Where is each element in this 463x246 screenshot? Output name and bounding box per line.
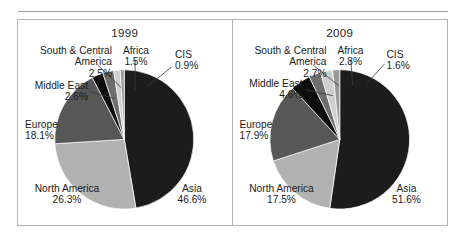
label-text: Europe — [240, 119, 273, 130]
label-pct: 17.9% — [240, 130, 300, 141]
label-europe-2009: Europe 17.9% — [240, 119, 300, 142]
label-asia-2009: Asia 51.6% — [379, 183, 435, 206]
label-africa-2009: Africa 2.8% — [329, 45, 373, 68]
label-text: North America — [35, 183, 100, 194]
label-text: CIS — [387, 49, 404, 60]
label-text: CIS — [175, 49, 192, 60]
label-middle-east-2009: Middle East 4.6% — [231, 78, 303, 101]
label-text: Europe — [25, 119, 58, 130]
label-text: Africa — [337, 45, 363, 56]
label-text: Africa — [123, 45, 149, 56]
label-pct: 2.6% — [16, 91, 88, 102]
label-text: Asia — [182, 183, 202, 194]
label-europe-1999: Europe 18.1% — [25, 119, 85, 142]
pie-chart-figure: 1999 South & Central America 2.5% — [0, 0, 463, 246]
label-pct: 51.6% — [379, 194, 435, 205]
label-text-2: America — [16, 56, 112, 67]
label-text: Middle East — [35, 80, 88, 91]
label-pct: 2.5% — [16, 68, 112, 79]
label-pct: 17.5% — [236, 194, 328, 205]
label-africa-1999: Africa 1.5% — [114, 45, 158, 68]
label-pct: 18.1% — [25, 130, 85, 141]
top-divider-rule — [18, 11, 448, 12]
label-pct: 2.8% — [329, 56, 373, 67]
label-text: South & Central — [255, 45, 327, 56]
label-text: Asia — [397, 183, 417, 194]
chart-panel-2009: 2009 South & Central America 2.7% — [233, 20, 448, 225]
label-cis-1999: CIS 0.9% — [175, 49, 223, 72]
chart-panel-1999: 1999 South & Central America 2.5% — [18, 20, 233, 225]
label-text: South & Central — [40, 45, 112, 56]
label-text-2: America — [231, 56, 327, 67]
label-text: North America — [249, 183, 314, 194]
label-middle-east-1999: Middle East 2.6% — [16, 80, 88, 103]
label-south-central-america-1999: South & Central America 2.5% — [16, 45, 112, 79]
chart-panels-container: 1999 South & Central America 2.5% — [17, 19, 448, 226]
label-pct: 4.6% — [231, 89, 303, 100]
label-cis-2009: CIS 1.6% — [387, 49, 435, 72]
label-pct: 1.5% — [114, 56, 158, 67]
label-south-central-america-2009: South & Central America 2.7% — [231, 45, 327, 79]
label-text: Middle East — [249, 78, 302, 89]
label-pct: 0.9% — [175, 60, 223, 71]
label-asia-1999: Asia 46.6% — [164, 183, 220, 206]
label-north-america-1999: North America 26.3% — [21, 183, 113, 206]
label-pct: 1.6% — [387, 60, 435, 71]
label-pct: 26.3% — [21, 194, 113, 205]
label-pct: 46.6% — [164, 194, 220, 205]
label-north-america-2009: North America 17.5% — [236, 183, 328, 206]
